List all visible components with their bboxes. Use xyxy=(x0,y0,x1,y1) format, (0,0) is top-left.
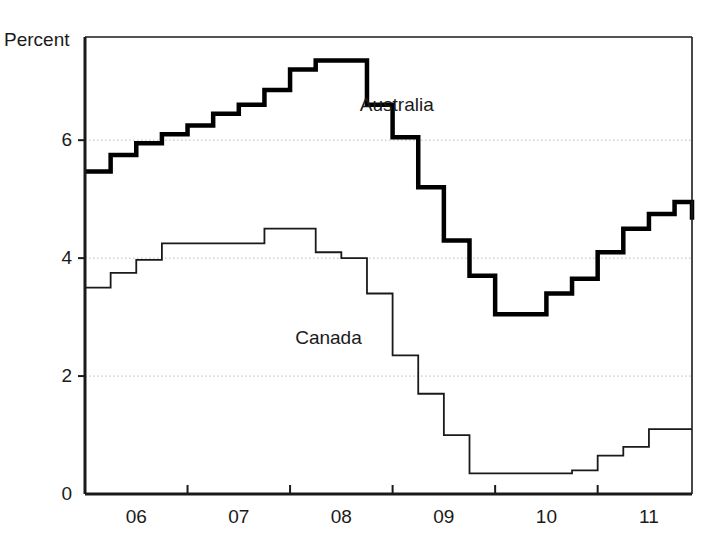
series-line-canada xyxy=(85,229,692,474)
x-tick-label: 11 xyxy=(624,507,674,526)
plot-area xyxy=(0,0,719,556)
canada-label: Canada xyxy=(295,328,362,347)
x-tick-label: 06 xyxy=(111,507,161,526)
series-lines xyxy=(85,61,692,474)
gridlines xyxy=(85,140,692,376)
y-tick-label: 6 xyxy=(32,130,72,149)
axis-ticks xyxy=(78,140,598,494)
y-tick-label: 4 xyxy=(32,248,72,267)
y-tick-label: 0 xyxy=(32,484,72,503)
x-tick-label: 09 xyxy=(419,507,469,526)
chart-figure: Percent 0246 060708091011 AustraliaCanad… xyxy=(0,0,719,556)
x-tick-label: 07 xyxy=(214,507,264,526)
australia-label: Australia xyxy=(360,95,434,114)
x-tick-label: 10 xyxy=(521,507,571,526)
x-tick-label: 08 xyxy=(316,507,366,526)
y-tick-label: 2 xyxy=(32,366,72,385)
